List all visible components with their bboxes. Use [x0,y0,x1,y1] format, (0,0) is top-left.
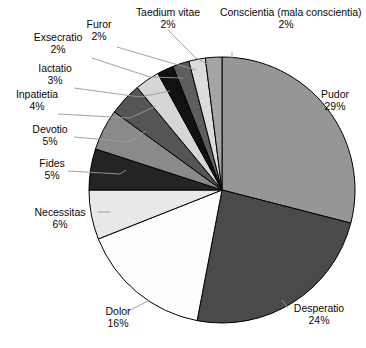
slice-label-conscientia-name: Conscientia (mala conscientia) [220,6,352,18]
slice-label-taedium-vitae-pct: 2% [118,18,218,30]
slice-label-dolor-pct: 16% [88,317,148,329]
slice-label-pudor-pct: 29% [308,100,362,112]
slice-label-devotio-pct: 5% [14,135,86,147]
slice-label-devotio-name: Devotio [14,123,86,135]
slice-label-desperatio-name: Desperatio [277,302,361,314]
slice-label-necessitas-name: Necessitas [18,206,102,218]
slice-label-iactatio-pct: 3% [20,74,90,86]
slice-label-inpatietia-name: Inpatietia [0,88,74,100]
slice-label-iactatio-name: Iactatio [20,62,90,74]
slice-label-exsecratio: Exsecratio 2% [18,31,98,56]
slice-label-fides: Fides 5% [22,157,82,182]
slice-label-fides-name: Fides [22,157,82,169]
slice-label-exsecratio-name: Exsecratio [18,31,98,43]
slice-label-dolor: Dolor 16% [88,305,148,330]
slice-label-pudor: Pudor 29% [308,88,362,113]
slice-label-inpatietia-pct: 4% [0,100,74,112]
slice-label-necessitas: Necessitas 6% [18,206,102,231]
slice-label-necessitas-pct: 6% [18,218,102,230]
slice-label-taedium-vitae-name: Taedium vitae [118,6,218,18]
slice-label-pudor-name: Pudor [308,88,362,100]
leader-line-furor [117,47,196,70]
slice-label-conscientia-pct: 2% [220,18,352,30]
slice-label-desperatio-pct: 24% [277,314,361,326]
slice-label-exsecratio-pct: 2% [18,43,98,55]
slice-label-desperatio: Desperatio 24% [277,302,361,327]
slice-label-taedium-vitae: Taedium vitae 2% [118,6,218,31]
slice-label-conscientia: Conscientia (mala conscientia) 2% [220,6,352,31]
slice-label-devotio: Devotio 5% [14,123,86,148]
slice-label-fides-pct: 5% [22,169,82,181]
slice-label-inpatietia: Inpatietia 4% [0,88,74,113]
slice-label-dolor-name: Dolor [88,305,148,317]
slice-label-iactatio: Iactatio 3% [20,62,90,87]
pie-chart-figure: Conscientia (mala conscientia) 2% Taediu… [0,0,366,348]
slice-label-furor-name: Furor [72,18,126,30]
